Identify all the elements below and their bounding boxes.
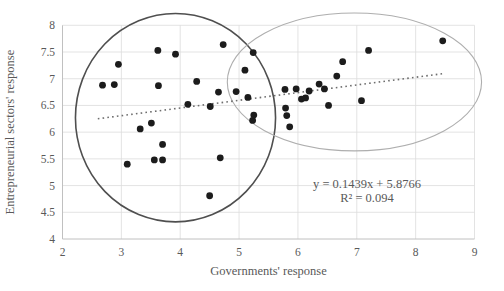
y-tick-label: 7	[49, 73, 55, 85]
trendline-r-squared: R² = 0.094	[340, 191, 394, 205]
scatter-chart: 2345678944.555.566.577.58Governments' re…	[0, 0, 504, 291]
data-point	[325, 102, 332, 109]
y-axis-title: Entrepreneurial sectors' response	[3, 49, 17, 214]
data-point	[155, 82, 162, 89]
data-point	[439, 37, 446, 44]
data-point	[306, 88, 313, 95]
data-point	[282, 86, 289, 93]
x-tick-label: 8	[413, 246, 419, 258]
data-point	[137, 126, 144, 133]
data-point	[184, 101, 191, 108]
data-point	[250, 49, 257, 56]
data-point	[302, 95, 309, 102]
y-tick-label: 4	[49, 233, 55, 245]
data-point	[99, 82, 106, 89]
y-tick-label: 5.5	[41, 153, 56, 165]
x-tick-label: 3	[118, 246, 124, 258]
data-point	[233, 88, 240, 95]
data-point	[207, 103, 214, 110]
trendline-equation: y = 0.1439x + 5.8766	[313, 177, 421, 191]
data-point	[245, 94, 252, 101]
data-point	[193, 78, 200, 85]
data-point	[250, 112, 257, 119]
data-point	[321, 85, 328, 92]
data-point	[159, 157, 166, 164]
data-point	[217, 154, 224, 161]
y-tick-label: 6	[49, 126, 55, 138]
data-point	[215, 89, 222, 96]
data-point	[242, 67, 249, 74]
data-point	[358, 97, 365, 104]
y-tick-label: 6.5	[41, 99, 56, 111]
x-tick-label: 7	[354, 246, 360, 258]
x-tick-label: 4	[177, 246, 183, 258]
scatter-chart-figure: 2345678944.555.566.577.58Governments' re…	[0, 0, 504, 291]
chart-background	[0, 0, 504, 291]
data-point	[316, 81, 323, 88]
data-point	[115, 61, 122, 68]
y-tick-label: 5	[49, 180, 55, 192]
data-point	[220, 41, 227, 48]
data-point	[339, 58, 346, 65]
x-axis-title: Governments' response	[210, 264, 327, 278]
data-point	[282, 105, 289, 112]
x-tick-label: 9	[472, 246, 478, 258]
data-point	[172, 51, 179, 58]
x-tick-label: 2	[60, 246, 66, 258]
data-point	[365, 47, 372, 54]
data-point	[151, 157, 158, 164]
data-point	[159, 141, 166, 148]
data-point	[124, 161, 131, 168]
y-tick-label: 7.5	[41, 46, 56, 58]
data-point	[206, 192, 213, 199]
data-point	[283, 112, 290, 119]
data-point	[154, 47, 161, 54]
data-point	[333, 73, 340, 80]
y-tick-label: 8	[49, 19, 55, 31]
data-point	[111, 81, 118, 88]
data-point	[293, 85, 300, 92]
x-tick-label: 6	[295, 246, 301, 258]
y-tick-label: 4.5	[41, 206, 56, 218]
data-point	[286, 123, 293, 130]
x-tick-label: 5	[236, 246, 242, 258]
data-point	[148, 120, 155, 127]
